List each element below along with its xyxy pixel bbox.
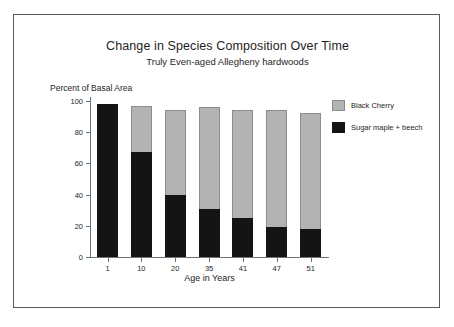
chart-title: Change in Species Composition Over Time xyxy=(14,39,441,53)
x-tick-label-41: 41 xyxy=(239,264,247,273)
x-tick-20 xyxy=(175,258,176,262)
bar-stack xyxy=(97,104,118,257)
bar-stack xyxy=(232,110,253,257)
bar-segment-black-cherry xyxy=(131,106,152,153)
bar-segment-sugar-maple-beech xyxy=(97,104,118,257)
y-axis-title: Percent of Basal Area xyxy=(50,83,132,93)
bar-segment-sugar-maple-beech xyxy=(266,227,287,257)
bar-segment-black-cherry xyxy=(300,113,321,228)
y-tick-80 xyxy=(86,132,90,133)
y-tick-label-60: 60 xyxy=(75,159,83,168)
chart-legend: Black CherrySugar maple + beech xyxy=(332,100,423,144)
bar-segment-sugar-maple-beech xyxy=(300,229,321,257)
y-tick-0 xyxy=(86,257,90,258)
legend-label: Black Cherry xyxy=(351,101,394,110)
y-tick-100 xyxy=(86,101,90,102)
y-tick-20 xyxy=(86,226,90,227)
chart-page-frame: Change in Species Composition Over Time … xyxy=(13,14,440,308)
bar-segment-black-cherry xyxy=(199,107,220,208)
y-axis-line xyxy=(90,97,91,257)
y-tick-60 xyxy=(86,163,90,164)
bar-segment-sugar-maple-beech xyxy=(131,152,152,257)
bar-segment-sugar-maple-beech xyxy=(199,209,220,257)
x-tick-label-35: 35 xyxy=(205,264,213,273)
bar-stack xyxy=(199,107,220,257)
plot-area: 020406080100 1102035414751 xyxy=(90,101,327,257)
legend-swatch-icon xyxy=(332,122,345,133)
x-tick-35 xyxy=(209,258,210,262)
x-tick-label-20: 20 xyxy=(171,264,179,273)
legend-label: Sugar maple + beech xyxy=(351,123,423,132)
x-tick-10 xyxy=(141,258,142,262)
bar-segment-black-cherry xyxy=(232,110,253,218)
x-tick-label-51: 51 xyxy=(306,264,314,273)
x-tick-47 xyxy=(277,258,278,262)
bar-segment-black-cherry xyxy=(165,110,186,195)
y-tick-label-0: 0 xyxy=(79,253,83,262)
x-tick-label-47: 47 xyxy=(273,264,281,273)
chart-subtitle: Truly Even-aged Allegheny hardwoods xyxy=(14,56,441,67)
legend-item: Black Cherry xyxy=(332,100,423,111)
y-tick-label-20: 20 xyxy=(75,221,83,230)
legend-item: Sugar maple + beech xyxy=(332,122,423,133)
y-tick-40 xyxy=(86,195,90,196)
x-tick-label-1: 1 xyxy=(105,264,109,273)
y-tick-label-80: 80 xyxy=(75,128,83,137)
bar-stack xyxy=(266,110,287,257)
bar-stack xyxy=(165,110,186,257)
x-tick-label-10: 10 xyxy=(137,264,145,273)
bar-segment-sugar-maple-beech xyxy=(232,218,253,257)
bar-segment-black-cherry xyxy=(266,110,287,227)
x-tick-1 xyxy=(108,258,109,262)
x-axis-title: Age in Years xyxy=(90,273,329,283)
y-tick-label-100: 100 xyxy=(70,97,83,106)
x-tick-41 xyxy=(243,258,244,262)
legend-swatch-icon xyxy=(332,100,345,111)
bar-segment-sugar-maple-beech xyxy=(165,195,186,257)
y-tick-label-40: 40 xyxy=(75,190,83,199)
bar-stack xyxy=(131,106,152,257)
bar-stack xyxy=(300,113,321,257)
x-tick-51 xyxy=(311,258,312,262)
